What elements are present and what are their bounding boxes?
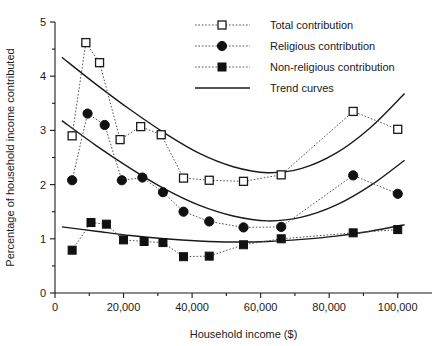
trend-curves-group	[62, 57, 405, 242]
data-point	[158, 188, 167, 197]
data-point	[83, 109, 92, 118]
data-point	[116, 136, 124, 144]
data-point	[394, 125, 402, 133]
series-non-religious-contribution	[68, 219, 402, 261]
x-tick-label: 80,000	[312, 301, 346, 313]
data-point	[68, 132, 76, 140]
legend-item: Trend curves	[195, 82, 334, 94]
x-tick-label: 60,000	[244, 301, 278, 313]
legend-item: Non-religious contribution	[195, 61, 395, 73]
legend-label: Non-religious contribution	[270, 61, 395, 73]
y-tick-label: 5	[40, 16, 46, 28]
legend-label: Total contribution	[270, 19, 353, 31]
data-point	[240, 177, 248, 185]
data-point	[349, 107, 357, 115]
x-tick-label: 40,000	[175, 301, 209, 313]
data-point	[180, 253, 188, 261]
data-point	[205, 252, 213, 260]
data-point	[120, 236, 128, 244]
chart-container: 012345020,00040,00060,00080,000100,000 T…	[0, 0, 440, 346]
legend-label: Religious contribution	[270, 40, 375, 52]
data-point	[96, 59, 104, 67]
data-point	[140, 238, 148, 246]
data-point	[205, 217, 214, 226]
legend-marker	[217, 41, 226, 50]
data-point	[82, 39, 90, 47]
x-tick-label: 20,000	[107, 301, 141, 313]
data-point	[100, 120, 109, 129]
data-point	[277, 235, 285, 243]
data-point	[205, 176, 213, 184]
data-point	[102, 220, 110, 228]
data-point	[87, 219, 95, 227]
data-point	[68, 176, 77, 185]
legend-label: Trend curves	[270, 82, 334, 94]
data-point	[240, 241, 248, 249]
data-point	[180, 174, 188, 182]
data-point	[349, 171, 358, 180]
data-point	[157, 131, 165, 139]
data-point	[137, 123, 145, 131]
y-tick-label: 0	[40, 287, 46, 299]
chart-canvas: 012345020,00040,00060,00080,000100,000 T…	[0, 0, 440, 346]
data-point	[239, 223, 248, 232]
y-tick-label: 1	[40, 233, 46, 245]
data-point	[68, 246, 76, 254]
legend-marker	[218, 21, 226, 29]
y-tick-label: 4	[40, 70, 46, 82]
data-point	[349, 229, 357, 237]
series-religious-contribution	[68, 109, 403, 232]
data-point	[393, 189, 402, 198]
legend-item: Religious contribution	[195, 40, 375, 52]
series-connector-line	[72, 114, 398, 228]
legend: Total contributionReligious contribution…	[195, 19, 395, 94]
data-point	[277, 222, 286, 231]
data-point	[117, 176, 126, 185]
data-point	[179, 207, 188, 216]
legend-item: Total contribution	[195, 19, 353, 31]
y-axis-label: Percentage of household income contribut…	[4, 48, 16, 266]
y-tick-label: 2	[40, 179, 46, 191]
data-point	[394, 226, 402, 234]
data-point	[138, 173, 147, 182]
x-tick-label: 100,000	[378, 301, 418, 313]
y-tick-label: 3	[40, 124, 46, 136]
legend-marker	[218, 63, 226, 71]
data-point	[277, 171, 285, 179]
x-axis-label: Household income ($)	[190, 328, 298, 340]
x-tick-label: 0	[52, 301, 58, 313]
data-point	[159, 239, 167, 247]
